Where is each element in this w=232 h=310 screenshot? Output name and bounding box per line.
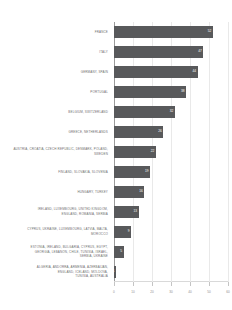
bar[interactable]: 47 bbox=[114, 46, 203, 57]
axis-tick-label: 0 bbox=[113, 290, 115, 294]
category-label: HUNGARY, TURKEY bbox=[2, 190, 108, 195]
bar-value-label: 32 bbox=[170, 110, 174, 113]
category-axis-labels: FRANCEITALYGERMANY, SPAINPORTUGALBELGIUM… bbox=[0, 22, 112, 282]
axis-tick-label: 10 bbox=[131, 290, 135, 294]
category-label: FINLAND, SLOVAKIA, SLOVENIA bbox=[2, 170, 108, 175]
bar-value-label: 47 bbox=[198, 50, 202, 53]
axis-tick bbox=[190, 282, 191, 286]
category-label: IRELAND, LUXEMBOURG, UNITED KINGDOM, ENG… bbox=[2, 207, 108, 216]
bar-value-label: 9 bbox=[128, 230, 130, 233]
bar[interactable]: 9 bbox=[114, 226, 131, 237]
category-label: CYPRUS, UKRAINE, LUXEMBOURG, LATVIA, MAL… bbox=[2, 227, 108, 236]
axis-tick-label: 60 bbox=[226, 290, 230, 294]
bar-value-label: 1 bbox=[113, 270, 115, 273]
bar-value-label: 38 bbox=[181, 90, 185, 93]
bar-row: 19 bbox=[114, 166, 228, 177]
bar-row: 32 bbox=[114, 106, 228, 117]
bar-value-label: 19 bbox=[145, 170, 149, 173]
bar-value-label: 22 bbox=[151, 150, 155, 153]
bar-row: 16 bbox=[114, 186, 228, 197]
axis-tick bbox=[228, 282, 229, 286]
bar[interactable]: 13 bbox=[114, 206, 139, 217]
category-label: ITALY bbox=[2, 50, 108, 55]
category-label: ESTONIA, IRELAND, BULGARIA, CYPRUS, EGYP… bbox=[2, 245, 108, 259]
bar[interactable]: 22 bbox=[114, 146, 156, 157]
bar-row: 13 bbox=[114, 206, 228, 217]
bar-row: 5 bbox=[114, 246, 228, 257]
axis-tick bbox=[209, 282, 210, 286]
bar-row: 9 bbox=[114, 226, 228, 237]
bar-chart: FRANCEITALYGERMANY, SPAINPORTUGALBELGIUM… bbox=[0, 0, 232, 310]
bar[interactable]: 44 bbox=[114, 66, 198, 77]
bar[interactable]: 16 bbox=[114, 186, 144, 197]
bar-row: 44 bbox=[114, 66, 228, 77]
bar-rows: 52474438322622191613951 bbox=[114, 22, 228, 282]
bar-value-label: 52 bbox=[208, 30, 212, 33]
bar[interactable]: 32 bbox=[114, 106, 175, 117]
plot-area: 0102030405060 52474438322622191613951 bbox=[114, 22, 228, 290]
axis-tick-label: 50 bbox=[207, 290, 211, 294]
bar-value-label: 26 bbox=[158, 130, 162, 133]
axis-tick-label: 20 bbox=[150, 290, 154, 294]
axis-tick bbox=[133, 282, 134, 286]
bar[interactable]: 26 bbox=[114, 126, 163, 137]
bar-row: 52 bbox=[114, 26, 228, 37]
axis-tick-label: 30 bbox=[169, 290, 173, 294]
category-label: BELGIUM, SWITZERLAND bbox=[2, 110, 108, 115]
bar[interactable]: 19 bbox=[114, 166, 150, 177]
bar-value-label: 13 bbox=[134, 210, 138, 213]
category-label: PORTUGAL bbox=[2, 90, 108, 95]
category-label: FRANCE bbox=[2, 30, 108, 35]
bar[interactable]: 1 bbox=[114, 266, 116, 277]
bar[interactable]: 38 bbox=[114, 86, 186, 97]
bar-value-label: 44 bbox=[192, 70, 196, 73]
axis-tick bbox=[171, 282, 172, 286]
category-label: AUSTRIA, CROATIA, CZECH REPUBLIC, DENMAR… bbox=[2, 147, 108, 156]
bar-row: 1 bbox=[114, 266, 228, 277]
axis-tick-label: 40 bbox=[188, 290, 192, 294]
bar-value-label: 5 bbox=[120, 250, 122, 253]
bar-value-label: 16 bbox=[139, 190, 143, 193]
bar[interactable]: 5 bbox=[114, 246, 124, 257]
bar-row: 22 bbox=[114, 146, 228, 157]
axis-tick bbox=[152, 282, 153, 286]
bar-row: 47 bbox=[114, 46, 228, 57]
category-label: GREECE, NETHERLANDS bbox=[2, 130, 108, 135]
category-label: GERMANY, SPAIN bbox=[2, 70, 108, 75]
bar[interactable]: 52 bbox=[114, 26, 213, 37]
gridline bbox=[228, 22, 229, 282]
bar-row: 26 bbox=[114, 126, 228, 137]
axis-tick bbox=[114, 282, 115, 286]
category-label: ALGERIA, ANDORRA, ARMENIA, AZERBAIJAN, E… bbox=[2, 265, 108, 279]
bar-row: 38 bbox=[114, 86, 228, 97]
